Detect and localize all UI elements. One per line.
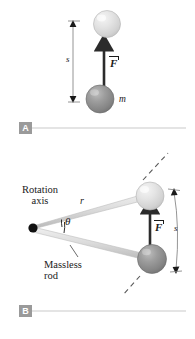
rod-lower [33,227,150,261]
rotation-axis-point [28,223,37,232]
angle-label-b: θ [65,216,70,228]
force-vector-label-a: F [110,58,117,70]
displacement-label-a: s [66,55,70,64]
tangent-dashed-lower [122,276,140,296]
massless-rod-label-line2: rod [44,270,82,281]
panel-a-graphic [28,11,186,129]
radius-label-b: r [80,196,84,207]
panel-tag-a: A [19,122,32,134]
sphere-final-position-b [136,182,164,210]
tangent-dashed-upper [143,153,168,180]
massless-rod-label: Massless rod [44,259,82,281]
massless-rod-label-line1: Massless [44,259,82,270]
sphere-mass-a [86,85,114,113]
arc-length-label-b: s [174,224,178,233]
massless-rod-leader [70,245,78,257]
rotation-axis-label-line2: axis [8,195,72,206]
sphere-final-position-a [94,11,121,38]
mass-label-a: m [119,95,126,105]
force-symbol-b: F [155,222,162,234]
rotation-axis-label: Rotation axis [8,184,72,206]
force-symbol-a: F [110,58,117,70]
panel-tag-b: B [19,305,32,317]
physics-figure [0,0,195,339]
sphere-mass-b [138,245,167,274]
rotation-axis-label-line1: Rotation [8,184,72,195]
force-vector-label-b: F [155,222,162,234]
